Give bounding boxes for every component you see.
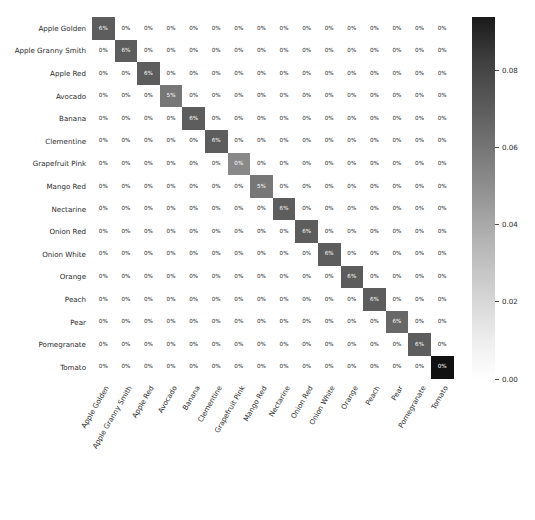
heatmap-cell-value: 0% [438,206,447,212]
heatmap-cell-value: 0% [144,93,153,99]
heatmap-cell-value: 0% [347,319,356,325]
heatmap-cell: 0% [92,356,115,379]
heatmap-cell-value: 0% [234,138,243,144]
heatmap-cell: 0% [205,220,228,243]
heatmap-cell: 0% [182,288,205,311]
heatmap-cell: 0% [182,333,205,356]
y-tick-label: Apple Red [50,62,86,85]
heatmap-cell: 0% [431,288,454,311]
heatmap-cell-value: 0% [393,161,402,167]
heatmap-cell-value: 0% [438,251,447,257]
heatmap-cell: 0% [408,40,431,63]
heatmap-cell-value: 0% [415,297,424,303]
heatmap-cell: 0% [341,288,364,311]
heatmap-cell-value: 0% [302,274,311,280]
heatmap-cell-value: 0% [257,206,266,212]
heatmap-cell: 0% [273,17,296,40]
y-axis-tick-labels: Apple GoldenApple Granny SmithApple RedA… [0,17,86,379]
heatmap-cell-value: 0% [438,364,447,370]
heatmap-cell-value: 0% [302,206,311,212]
heatmap-cell-value: 0% [415,161,424,167]
heatmap-cell: 0% [318,62,341,85]
heatmap-cell-value: 0% [189,26,198,32]
heatmap-cell: 0% [92,107,115,130]
heatmap-cell: 0% [341,243,364,266]
heatmap-cell-diagonal: 0% [431,356,454,379]
heatmap-cell-value: 0% [325,206,334,212]
heatmap-cell-value: 0% [121,364,130,370]
heatmap-cell: 0% [205,198,228,221]
heatmap-cell-diagonal: 6% [205,130,228,153]
heatmap-cell-value: 6% [144,71,153,77]
heatmap-cell: 0% [182,130,205,153]
heatmap-row: 0%0%0%0%0%0%0%0%0%0%0%6%0%0%0%0% [92,266,454,289]
heatmap-cell: 0% [182,220,205,243]
heatmap-cell: 0% [115,243,138,266]
heatmap-cell-value: 0% [144,229,153,235]
heatmap-cell: 0% [92,130,115,153]
heatmap-cell: 0% [205,40,228,63]
heatmap-cell-value: 0% [393,93,402,99]
heatmap-cell-value: 0% [438,71,447,77]
heatmap-cell: 0% [273,62,296,85]
heatmap-cell: 0% [363,333,386,356]
heatmap-cell-value: 0% [121,297,130,303]
heatmap-cell-value: 0% [280,274,289,280]
heatmap-cell: 0% [160,130,183,153]
x-tick-slot: Apple Red [137,382,160,502]
heatmap-cell-value: 0% [347,184,356,190]
heatmap-cell: 0% [318,266,341,289]
heatmap-cell-value: 0% [257,297,266,303]
heatmap-cell-value: 0% [257,93,266,99]
heatmap-cell-value: 0% [167,364,176,370]
heatmap-cell-diagonal: 6% [318,243,341,266]
heatmap-cell: 0% [295,153,318,176]
heatmap-cell-value: 0% [370,364,379,370]
heatmap-cell-value: 0% [302,319,311,325]
heatmap-cell-value: 0% [257,138,266,144]
heatmap-cell: 0% [115,153,138,176]
heatmap-cell-value: 0% [212,71,221,77]
heatmap-cell: 0% [250,288,273,311]
heatmap-cell-value: 0% [167,251,176,257]
heatmap-cell-value: 0% [234,161,243,167]
heatmap-cell-value: 0% [438,297,447,303]
heatmap-cell-value: 0% [325,93,334,99]
heatmap-cell: 0% [431,62,454,85]
heatmap-cell-value: 0% [144,116,153,122]
colorbar-gradient [472,17,495,379]
heatmap-cell-value: 0% [212,251,221,257]
heatmap-cell-value: 0% [212,116,221,122]
heatmap-cell: 0% [408,311,431,334]
heatmap-cell: 0% [205,288,228,311]
heatmap-cell-value: 0% [280,229,289,235]
heatmap-cell-value: 0% [415,116,424,122]
heatmap-cell-value: 0% [144,342,153,348]
heatmap-cell-value: 6% [302,229,311,235]
heatmap-cell: 0% [115,107,138,130]
heatmap-cell: 0% [182,175,205,198]
heatmap-cell-value: 0% [302,251,311,257]
heatmap-cell-value: 0% [370,93,379,99]
heatmap-cell-value: 0% [280,161,289,167]
heatmap-cell: 0% [160,220,183,243]
heatmap-cell: 0% [295,266,318,289]
heatmap-cell-value: 0% [167,297,176,303]
heatmap-cell: 0% [431,311,454,334]
heatmap-cell-diagonal: 6% [363,288,386,311]
colorbar-tick-label: 0.04 [502,220,518,229]
heatmap-cell: 0% [228,311,251,334]
heatmap-cell-value: 0% [438,138,447,144]
heatmap-cell-diagonal: 6% [408,333,431,356]
heatmap-cell: 0% [341,130,364,153]
heatmap-cell: 0% [273,175,296,198]
heatmap-cell-value: 0% [393,229,402,235]
heatmap-cell-value: 0% [280,251,289,257]
heatmap-cell-value: 0% [189,48,198,54]
heatmap-cell-value: 0% [99,297,108,303]
heatmap-cell-value: 0% [167,274,176,280]
heatmap-cell-value: 0% [234,206,243,212]
heatmap-cell: 0% [318,311,341,334]
heatmap-cell-value: 0% [121,274,130,280]
heatmap-cell-value: 0% [347,26,356,32]
